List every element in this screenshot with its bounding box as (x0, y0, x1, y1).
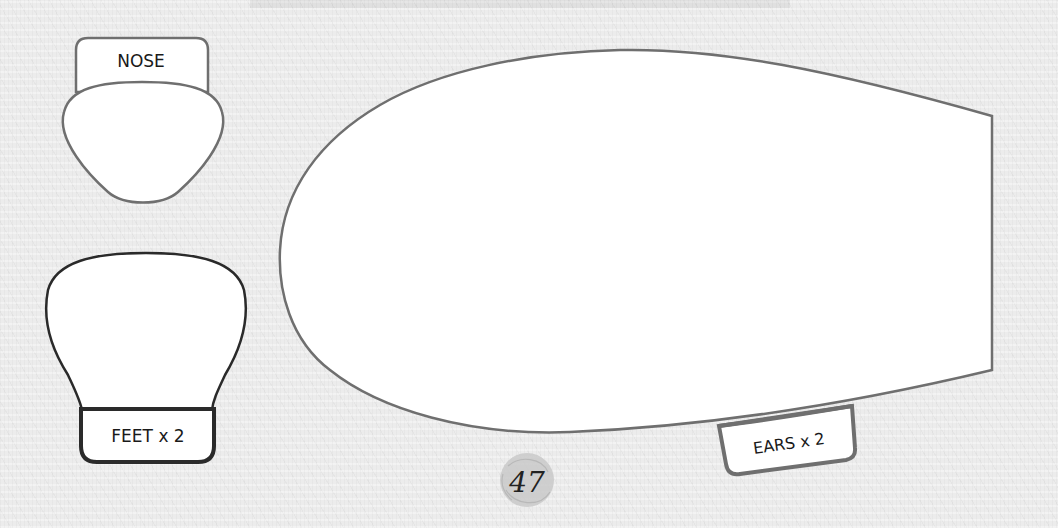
page-number-badge: 47 (500, 453, 554, 507)
body-piece (280, 50, 992, 433)
feet-shape (46, 253, 246, 410)
pattern-canvas: NOSE FEET x 2 EARS x 2 47 (0, 0, 1058, 528)
nose-piece: NOSE (63, 38, 223, 203)
page-number: 47 (508, 466, 545, 499)
nose-label: NOSE (117, 51, 165, 71)
nose-shape (63, 82, 223, 203)
feet-piece: FEET x 2 (46, 253, 246, 462)
feet-label: FEET x 2 (111, 426, 184, 446)
body-shape (280, 50, 992, 433)
